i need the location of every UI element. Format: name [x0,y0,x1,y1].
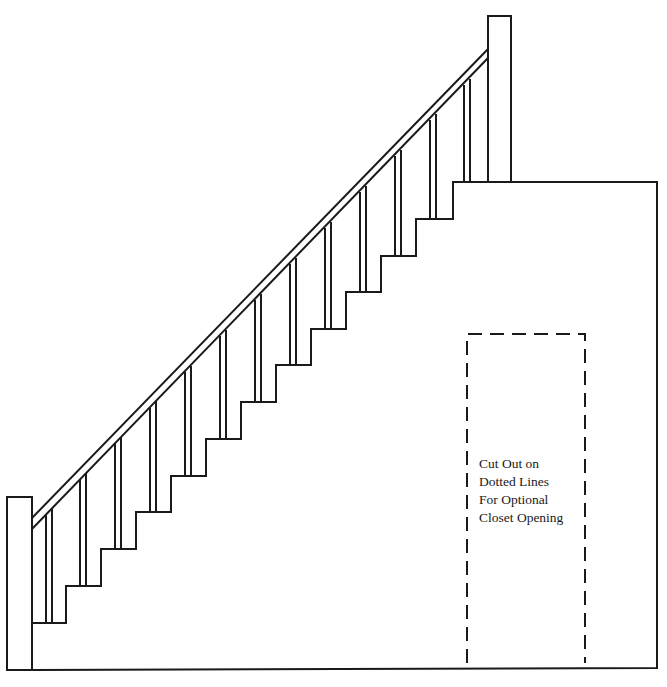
note-line-4: Closet Opening [479,509,563,527]
staircase-drawing [0,0,667,687]
balusters [46,79,470,623]
stair-wall-outline [32,182,657,670]
handrail-top [32,49,488,518]
handrail-bottom [32,58,488,529]
left-newel-post [7,497,32,670]
note-line-1: Cut Out on [479,455,563,473]
closet-cutout-note: Cut Out on Dotted Lines For Optional Clo… [479,455,563,527]
right-newel-post [488,16,511,182]
note-line-2: Dotted Lines [479,473,563,491]
note-line-3: For Optional [479,491,563,509]
